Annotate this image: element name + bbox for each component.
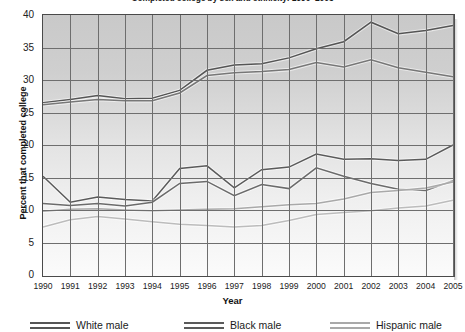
legend-item[interactable]: White male [30,318,129,332]
legend-item[interactable]: Hispanic male [330,318,442,332]
x-axis-tick-label: 2005 [438,281,465,291]
series-line-casing [43,168,453,206]
legend-item[interactable]: Black male [184,318,281,332]
y-axis-tick-label: 25 [0,107,34,118]
x-axis-tick-label: 1996 [192,281,222,291]
x-axis-tick-label: 2001 [329,281,359,291]
x-axis-tick-label: 1995 [165,281,195,291]
chart-legend: White maleBlack maleHispanic male [0,318,465,332]
gridline-horizontal [43,210,454,211]
gridline-horizontal [43,145,454,146]
legend-label: Black male [230,319,281,331]
y-axis-tick-label: 10 [0,204,34,215]
x-axis-tick-label: 2004 [411,281,441,291]
x-axis-tick-label: 1994 [137,281,167,291]
x-axis-tick-label: 2003 [383,281,413,291]
x-axis-title: Year [0,295,465,306]
y-axis-tick-label: 20 [0,139,34,150]
series-line-casing [43,22,453,103]
x-axis-tick-label: 1991 [55,281,85,291]
gridline-horizontal [43,48,454,49]
legend-label: White male [76,319,129,331]
series-line [43,145,453,202]
x-axis-tick-label: 1993 [110,281,140,291]
legend-swatch-icon [330,322,370,329]
x-axis-tick-label: 1999 [274,281,304,291]
legend-label: Hispanic male [376,319,442,331]
x-axis-tick-label: 1990 [28,281,58,291]
gridline-horizontal [43,243,454,244]
legend-swatch-icon [30,322,70,329]
y-axis-tick-label: 0 [0,269,34,280]
plot-area [42,14,455,277]
y-axis-tick-label: 15 [0,172,34,183]
series-line [43,22,453,103]
series-line-casing [43,145,453,202]
x-axis-tick-label: 1992 [83,281,113,291]
x-axis-tick-label: 2002 [356,281,386,291]
x-axis-tick-label: 2000 [301,281,331,291]
y-axis-tick-label: 35 [0,42,34,53]
gridline-horizontal [43,178,454,179]
gridline-horizontal [43,113,454,114]
y-axis-tick-label: 40 [0,9,34,20]
x-axis-tick-label: 1998 [247,281,277,291]
y-axis-tick-label: 5 [0,237,34,248]
x-axis-tick-label: 1997 [219,281,249,291]
gridline-vertical [453,15,454,276]
gridline-horizontal [43,80,454,81]
y-axis-tick-label: 30 [0,74,34,85]
legend-swatch-icon [184,322,224,329]
